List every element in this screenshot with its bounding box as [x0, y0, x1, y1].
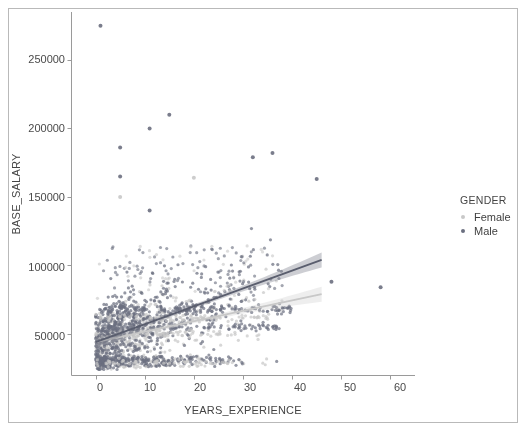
scatter-plot-canvas [0, 0, 528, 432]
legend-title: GENDER [460, 194, 522, 206]
x-tick-label: 20 [180, 381, 220, 393]
legend-marker-icon [461, 229, 465, 233]
x-tick-label: 50 [330, 381, 370, 393]
legend-entry: Female [458, 210, 522, 223]
x-tick-label: 60 [380, 381, 420, 393]
y-tick-label: 150000 [5, 191, 65, 203]
legend-entry: Male [458, 224, 522, 237]
x-tick-label: 0 [80, 381, 120, 393]
y-tick-label: 100000 [5, 261, 65, 273]
x-tick-label: 40 [280, 381, 320, 393]
x-tick-label: 10 [130, 381, 170, 393]
legend-marker-icon [461, 215, 465, 219]
y-tick-label: 200000 [5, 122, 65, 134]
chart-figure: YEARS_EXPERIENCE BASE_SALARY 01020304050… [0, 0, 528, 432]
legend-entry-label: Female [474, 211, 511, 223]
legend: GENDER FemaleMale [458, 194, 522, 238]
x-tick-label: 30 [230, 381, 270, 393]
legend-entry-label: Male [474, 225, 498, 237]
y-tick-label: 250000 [5, 53, 65, 65]
y-tick-label: 50000 [5, 330, 65, 342]
x-axis-title: YEARS_EXPERIENCE [0, 404, 486, 416]
legend-entries: FemaleMale [458, 210, 522, 237]
